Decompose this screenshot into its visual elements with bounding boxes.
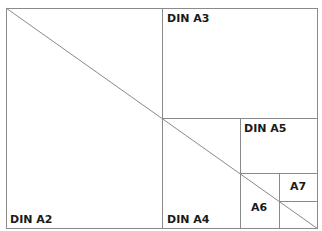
label-a5: DIN A5 [244, 123, 286, 134]
label-a3: DIN A3 [167, 13, 209, 24]
din-diagram [0, 0, 322, 231]
label-a6: A6 [251, 202, 267, 213]
label-a7: A7 [290, 181, 306, 192]
label-a4: DIN A4 [167, 214, 209, 225]
label-a2: DIN A2 [10, 214, 52, 225]
